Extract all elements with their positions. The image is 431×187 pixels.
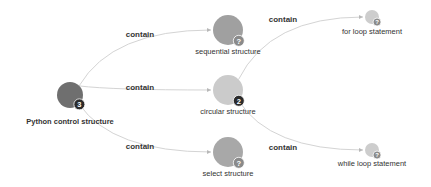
badge-text: ? <box>237 37 242 46</box>
node-select[interactable]: ?select structure <box>203 137 254 178</box>
node-forloop[interactable]: ?for loop statement <box>342 10 403 36</box>
edge-label[interactable]: contain <box>126 83 155 92</box>
node-label: while loop statement <box>337 159 407 168</box>
node-root[interactable]: 3Python control structure <box>26 82 114 126</box>
arrowhead-icon <box>207 88 211 92</box>
node-whileloop[interactable]: ?while loop statement <box>337 143 407 168</box>
badge-text: ? <box>237 159 242 168</box>
badge-text: ? <box>375 19 379 25</box>
node-label: for loop statement <box>342 27 403 36</box>
arrowhead-icon <box>207 28 211 32</box>
edge-label[interactable]: contain <box>126 30 155 39</box>
edge-label[interactable]: contain <box>269 15 298 24</box>
badge-text: ? <box>375 152 379 158</box>
arrowhead-icon <box>359 148 363 152</box>
mind-map-canvas: containcontaincontaincontaincontain 3Pyt… <box>0 0 431 187</box>
badge-text: 3 <box>77 100 81 109</box>
edge-circular-whileloop <box>239 101 364 151</box>
nodes-layer: 3Python control structure?sequential str… <box>26 10 407 178</box>
node-label: circular structure <box>200 107 255 116</box>
arrowhead-icon <box>359 15 363 19</box>
arrowhead-icon <box>207 150 211 154</box>
node-sequential[interactable]: ?sequential structure <box>195 15 260 56</box>
edge-label[interactable]: contain <box>269 143 298 152</box>
node-label: Python control structure <box>26 117 114 126</box>
node-circular[interactable]: 2circular structure <box>200 75 255 116</box>
badge-text: 2 <box>237 97 241 106</box>
node-label: sequential structure <box>195 47 260 56</box>
node-label: select structure <box>203 169 254 178</box>
edge-label[interactable]: contain <box>126 142 155 151</box>
